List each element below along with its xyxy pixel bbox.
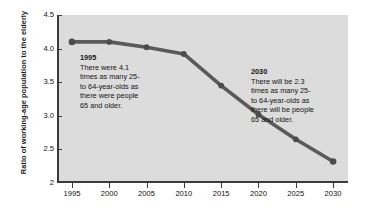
y-tick-label: 2.5 xyxy=(28,145,54,153)
x-tick-mark xyxy=(72,183,73,188)
y-tick-label: 2 xyxy=(28,179,54,187)
annotation-1995-body: There were 4.1 times as many 25- to 64-y… xyxy=(80,63,166,110)
chart-figure: Ratio of working-age population to the e… xyxy=(0,0,369,216)
x-tick-label: 1995 xyxy=(52,189,92,198)
x-tick-label: 2005 xyxy=(127,189,167,198)
x-tick-mark xyxy=(147,183,148,188)
y-tick-mark xyxy=(57,82,62,83)
y-tick-label: 3.5 xyxy=(28,78,54,86)
y-tick-mark xyxy=(57,149,62,150)
annotation-2030-title: 2030 xyxy=(251,67,343,76)
x-tick-mark xyxy=(296,183,297,188)
y-tick-mark xyxy=(57,15,62,16)
annotation-2030: 2030 There will be 2.3 times as many 25-… xyxy=(251,67,343,124)
x-tick-mark xyxy=(221,183,222,188)
y-tick-label: 4.5 xyxy=(28,11,54,19)
x-tick-label: 2030 xyxy=(313,189,353,198)
x-tick-label: 2025 xyxy=(276,189,316,198)
y-tick-label: 3.0 xyxy=(28,112,54,120)
y-tick-label: 4.0 xyxy=(28,45,54,53)
x-tick-label: 2015 xyxy=(201,189,241,198)
x-tick-mark xyxy=(333,183,334,188)
y-axis-title: Ratio of working-age population to the e… xyxy=(19,0,28,188)
annotation-1995: 1995 There were 4.1 times as many 25- to… xyxy=(80,53,166,110)
annotation-1995-title: 1995 xyxy=(80,53,166,62)
x-tick-mark xyxy=(258,183,259,188)
y-tick-mark xyxy=(57,49,62,50)
x-tick-label: 2000 xyxy=(89,189,129,198)
y-tick-mark xyxy=(57,116,62,117)
x-tick-label: 2020 xyxy=(238,189,278,198)
annotation-2030-body: There will be 2.3 times as many 25- to 6… xyxy=(251,77,343,124)
x-tick-label: 2010 xyxy=(164,189,204,198)
x-tick-mark xyxy=(184,183,185,188)
x-tick-mark xyxy=(109,183,110,188)
